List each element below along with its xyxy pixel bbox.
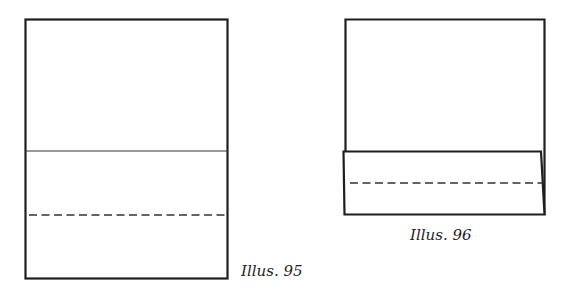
- diagram-canvas: [0, 0, 568, 292]
- illus-95-caption: Illus. 95: [241, 262, 303, 280]
- illus-96-caption: Illus. 96: [410, 226, 472, 244]
- illus-95-sheet-outline: [26, 20, 228, 279]
- illus-95-figure: [25, 20, 228, 279]
- illus-96-figure: [344, 20, 545, 216]
